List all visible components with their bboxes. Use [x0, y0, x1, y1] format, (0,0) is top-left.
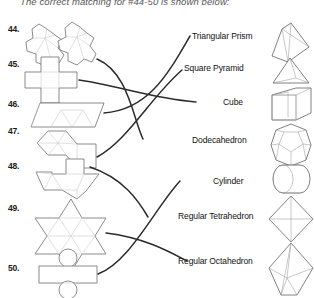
- match-line-48-regular-tetrahedron: [90, 167, 148, 217]
- matching-lines-group: [0, 0, 314, 298]
- match-line-44-dodecahedron: [97, 59, 143, 139]
- match-line-49-regular-octahedron: [106, 233, 187, 261]
- match-line-47-square-pyramid: [97, 70, 182, 157]
- worksheet-page: The correct matching for #44-50 is shown…: [0, 0, 314, 298]
- match-line-50-cylinder: [98, 181, 180, 274]
- match-line-45-cube: [79, 80, 196, 102]
